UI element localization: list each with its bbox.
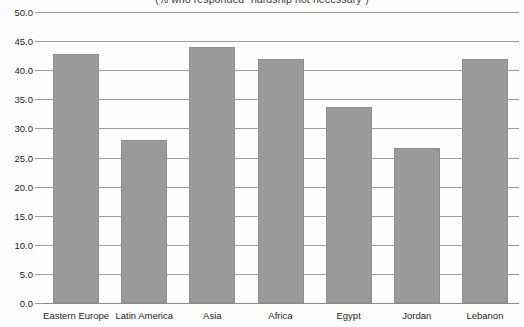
- y-axis-tick-label: 45.0: [15, 36, 34, 47]
- y-axis-tick: [35, 216, 42, 217]
- x-axis-tick-label: Africa: [268, 310, 292, 321]
- x-axis-tick-label: Eastern Europe: [43, 310, 109, 321]
- bar: [326, 107, 372, 303]
- x-axis-label-group: Eastern EuropeLatin AmericaAsiaAfricaEgy…: [42, 307, 519, 327]
- y-axis-tick-label: 0.0: [20, 298, 33, 309]
- gridline: [42, 41, 519, 42]
- y-axis-tick-label: 40.0: [15, 65, 34, 76]
- y-axis-tick: [35, 245, 42, 246]
- y-axis-tick-label: 30.0: [15, 123, 34, 134]
- chart-subtitle: (% who responded “hardship not necessary…: [0, 0, 524, 5]
- gridline: [42, 12, 519, 13]
- y-axis-tick: [35, 99, 42, 100]
- y-axis-tick: [35, 303, 42, 304]
- x-axis-tick-label: Latin America: [115, 310, 173, 321]
- y-axis-tick-label: 5.0: [20, 268, 33, 279]
- y-axis-tick: [35, 70, 42, 71]
- y-axis-tick-label: 10.0: [15, 239, 34, 250]
- y-axis-tick-label: 20.0: [15, 181, 34, 192]
- plot-area: 0.05.010.015.020.025.030.035.040.045.050…: [42, 12, 519, 303]
- y-axis-tick: [35, 187, 42, 188]
- bar: [258, 59, 304, 303]
- y-axis-tick: [35, 128, 42, 129]
- y-axis-tick: [35, 41, 42, 42]
- bar: [121, 140, 167, 303]
- y-axis-tick: [35, 274, 42, 275]
- y-axis-tick: [35, 12, 42, 13]
- x-axis-tick-label: Jordan: [402, 310, 431, 321]
- bar: [394, 148, 440, 303]
- x-axis-tick-label: Asia: [203, 310, 221, 321]
- y-axis-tick: [35, 158, 42, 159]
- bar: [53, 54, 99, 303]
- bar-chart-figure: (% who responded “hardship not necessary…: [0, 0, 524, 327]
- x-axis-tick-label: Lebanon: [466, 310, 503, 321]
- bar: [189, 47, 235, 303]
- y-axis-tick-label: 25.0: [15, 152, 34, 163]
- y-axis-tick-label: 15.0: [15, 210, 34, 221]
- gridline: [42, 303, 519, 304]
- x-axis-tick-label: Egypt: [336, 310, 360, 321]
- y-axis-tick-label: 35.0: [15, 94, 34, 105]
- y-axis-tick-label: 50.0: [15, 7, 34, 18]
- bar: [462, 59, 508, 303]
